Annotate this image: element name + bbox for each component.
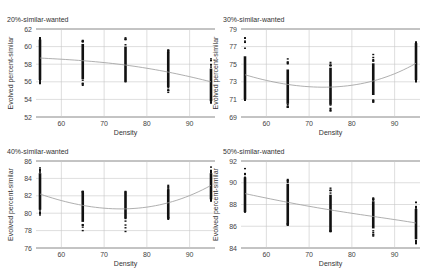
- data-point: [415, 207, 417, 208]
- data-point: [330, 187, 332, 188]
- data-point: [287, 181, 289, 182]
- data-point: [39, 167, 41, 168]
- x-tick-label: 70: [305, 251, 313, 258]
- y-tick-label: 84: [24, 175, 32, 182]
- data-points-dense: [39, 173, 42, 210]
- data-point: [287, 61, 289, 62]
- data-column: [124, 191, 127, 232]
- data-points-dense: [415, 43, 418, 80]
- x-tick-label: 60: [262, 120, 270, 127]
- data-point: [415, 42, 417, 43]
- x-tick-label: 80: [348, 251, 356, 258]
- data-point: [167, 90, 169, 91]
- data-point: [287, 224, 289, 225]
- data-point: [330, 192, 332, 193]
- data-point: [244, 174, 246, 175]
- data-points-dense: [167, 190, 170, 218]
- data-column: [415, 42, 418, 83]
- y-tick-label: 75: [229, 61, 237, 68]
- data-column: [244, 168, 247, 213]
- y-tick-label: 69: [229, 114, 237, 121]
- data-point: [244, 211, 246, 212]
- x-tick-label: 70: [305, 120, 313, 127]
- data-point: [39, 214, 41, 215]
- y-tick-label: 80: [24, 210, 32, 217]
- data-point: [244, 177, 246, 178]
- y-axis-label: Evolved percent-similar: [212, 36, 220, 109]
- data-points-dense: [81, 44, 84, 79]
- y-tick-label: 76: [24, 245, 32, 252]
- y-tick-label: 82: [24, 192, 32, 199]
- data-point: [125, 227, 127, 228]
- y-tick-label: 78: [24, 227, 32, 234]
- y-axis-label: Evolved percent-similar: [7, 167, 15, 240]
- data-point: [167, 87, 169, 88]
- data-point: [372, 232, 374, 233]
- data-point: [372, 101, 374, 102]
- chart-panel-4: 50%-similar-wanted848688909260708090Dens…: [212, 148, 420, 268]
- y-tick-label: 62: [24, 26, 32, 33]
- data-point: [330, 110, 332, 111]
- data-point: [167, 185, 169, 186]
- data-point: [287, 104, 289, 105]
- x-tick-label: 60: [262, 251, 270, 258]
- x-tick-label: 80: [143, 120, 151, 127]
- data-point: [244, 38, 246, 39]
- data-points-dense: [286, 184, 289, 224]
- chart-panel-1: 20%-similar-wanted52545658606260708090De…: [7, 16, 215, 137]
- data-point: [330, 63, 332, 64]
- data-points-dense: [124, 47, 127, 82]
- panel-title: 20%-similar-wanted: [7, 16, 69, 23]
- y-tick-label: 92: [229, 158, 237, 165]
- data-point: [82, 41, 84, 42]
- data-point: [244, 99, 246, 100]
- data-points-dense: [329, 68, 332, 105]
- data-point: [167, 92, 169, 93]
- data-point: [372, 199, 374, 200]
- y-axis-label: Evolved percent-similar: [7, 36, 15, 109]
- panel-title: 30%-similar-wanted: [223, 16, 285, 23]
- y-tick-label: 73: [229, 78, 237, 85]
- y-tick-label: 71: [229, 96, 237, 103]
- x-tick-label: 60: [57, 251, 65, 258]
- data-column: [329, 62, 332, 112]
- data-point: [372, 54, 374, 55]
- data-column: [81, 191, 84, 232]
- data-point: [287, 182, 289, 183]
- x-axis-label: Density: [319, 260, 343, 268]
- y-tick-label: 52: [24, 114, 32, 121]
- data-point: [330, 104, 332, 105]
- panel-title: 40%-similar-wanted: [7, 148, 69, 155]
- data-point: [287, 58, 289, 59]
- x-tick-label: 90: [391, 120, 399, 127]
- y-tick-label: 77: [229, 43, 237, 50]
- data-point: [125, 224, 127, 225]
- data-point: [39, 170, 41, 171]
- x-tick-label: 70: [100, 120, 108, 127]
- data-point: [125, 218, 127, 219]
- y-tick-label: 54: [24, 96, 32, 103]
- data-point: [125, 220, 127, 221]
- data-point: [415, 240, 417, 241]
- data-point: [372, 57, 374, 58]
- data-point: [125, 191, 127, 192]
- data-point: [39, 209, 41, 210]
- data-point: [415, 202, 417, 203]
- data-point: [330, 190, 332, 191]
- x-tick-label: 80: [143, 251, 151, 258]
- x-axis-label: Density: [319, 129, 343, 137]
- x-tick-label: 70: [100, 251, 108, 258]
- data-points-dense: [372, 63, 375, 95]
- x-axis-label: Density: [114, 129, 138, 137]
- data-column: [167, 49, 170, 93]
- data-points-dense: [286, 69, 289, 103]
- data-column: [372, 54, 375, 103]
- y-tick-label: 86: [229, 223, 237, 230]
- data-point: [287, 105, 289, 106]
- data-point: [125, 38, 127, 39]
- x-tick-label: 60: [57, 120, 65, 127]
- data-point: [167, 217, 169, 218]
- y-tick-label: 60: [24, 43, 32, 50]
- data-points-dense: [372, 201, 375, 228]
- y-tick-label: 56: [24, 78, 32, 85]
